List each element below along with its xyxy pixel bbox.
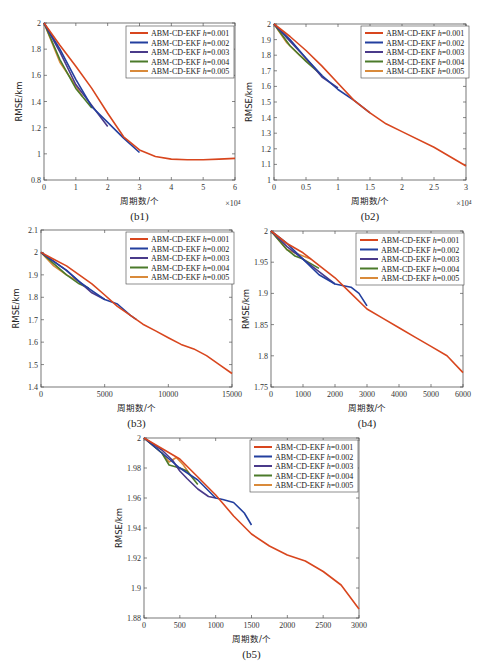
chart-b3: 0500010000150001.41.51.61.71.81.922.1周期数… [11, 226, 242, 430]
x-tick-label: 1500 [244, 621, 260, 630]
x-tick-label: 1000 [208, 621, 224, 630]
y-tick-label: 1.85 [254, 321, 268, 330]
legend-label: ABM-CD-EKF h=0.001 [275, 443, 353, 452]
figure-canvas: 01234560.811.21.41.61.82周期数/个RMSE/km×10⁴… [0, 0, 487, 664]
y-tick-label: 1.75 [254, 383, 268, 392]
legend-label: ABM-CD-EKF h=0.004 [275, 472, 353, 481]
x-tick-label: 3 [138, 183, 142, 192]
x-tick-label: 0 [272, 183, 276, 192]
legend-label: ABM-CD-EKF h=0.002 [386, 39, 464, 48]
x-tick-label: 5000 [97, 390, 113, 399]
y-tick-label: 2 [37, 19, 41, 28]
y-tick-label: 1.2 [261, 145, 271, 154]
x-tick-label: 3000 [359, 390, 375, 399]
chart-b4: 01000200030004000500060001.751.81.851.91… [241, 227, 471, 430]
y-tick-label: 1.8 [261, 51, 271, 60]
legend-label: ABM-CD-EKF h=0.005 [151, 67, 229, 76]
legend-label: ABM-CD-EKF h=0.002 [151, 245, 229, 254]
legend-label: ABM-CD-EKF h=0.003 [386, 48, 464, 57]
y-tick-label: 1.2 [31, 124, 41, 133]
series-line-h0-002 [274, 24, 370, 113]
y-tick-label: 1.7 [28, 316, 38, 325]
x-tick-label: 2500 [315, 621, 331, 630]
x-axis-label: 周期数/个 [232, 634, 271, 644]
legend-label: ABM-CD-EKF h=0.005 [275, 481, 353, 490]
y-tick-label: 2 [267, 20, 271, 29]
legend-label: ABM-CD-EKF h=0.001 [381, 236, 459, 245]
legend-label: ABM-CD-EKF h=0.003 [151, 48, 229, 57]
x-tick-label: 4000 [391, 390, 407, 399]
x-tick-label: 2 [106, 183, 110, 192]
y-tick-label: 1.6 [31, 71, 41, 80]
legend: ABM-CD-EKF h=0.001ABM-CD-EKF h=0.002ABM-… [126, 26, 234, 78]
y-axis-label: RMSE/km [11, 288, 21, 328]
y-tick-label: 1.1 [261, 160, 271, 169]
x-axis-label: 周期数/个 [120, 196, 159, 206]
legend-label: ABM-CD-EKF h=0.005 [381, 274, 459, 283]
x-axis-label: 周期数/个 [351, 196, 390, 206]
y-tick-label: 1.4 [261, 114, 271, 123]
y-tick-label: 1.6 [261, 82, 271, 91]
legend: ABM-CD-EKF h=0.001ABM-CD-EKF h=0.002ABM-… [361, 26, 469, 78]
legend-label: ABM-CD-EKF h=0.002 [381, 246, 459, 255]
legend-label: ABM-CD-EKF h=0.003 [275, 462, 353, 471]
y-tick-label: 1.8 [258, 352, 268, 361]
chart-b5: 0500100015002000250030001.881.91.921.941… [114, 434, 367, 661]
legend-label: ABM-CD-EKF h=0.001 [386, 29, 464, 38]
x-tick-label: 1 [336, 183, 340, 192]
y-tick-label: 1.9 [258, 289, 268, 298]
x-tick-label: 2.5 [429, 183, 439, 192]
y-tick-label: 1.9 [131, 584, 141, 593]
chart-caption: (b5) [242, 648, 261, 661]
y-axis-label: RMSE/km [114, 508, 124, 548]
x-tick-label: 500 [174, 621, 186, 630]
x-tick-label: 6 [233, 183, 237, 192]
x-tick-label: 0 [39, 390, 43, 399]
y-tick-label: 1.3 [261, 129, 271, 138]
legend-label: ABM-CD-EKF h=0.005 [151, 273, 229, 282]
legend-label: ABM-CD-EKF h=0.004 [151, 58, 229, 67]
x-tick-label: 3000 [351, 621, 367, 630]
legend-label: ABM-CD-EKF h=0.003 [151, 254, 229, 263]
x-tick-label: 1 [74, 183, 78, 192]
y-tick-label: 2.1 [28, 226, 38, 235]
y-tick-label: 2 [137, 434, 141, 443]
legend-label: ABM-CD-EKF h=0.001 [151, 235, 229, 244]
y-tick-label: 1.6 [28, 338, 38, 347]
legend-label: ABM-CD-EKF h=0.003 [381, 255, 459, 264]
chart-b1: 01234560.811.21.41.61.82周期数/个RMSE/km×10⁴… [14, 19, 241, 223]
x-tick-label: 6000 [455, 390, 471, 399]
x-tick-label: 0 [142, 621, 146, 630]
y-tick-label: 0.8 [31, 176, 41, 185]
y-axis-label: RMSE/km [14, 81, 24, 121]
y-tick-label: 1.88 [127, 614, 141, 623]
y-tick-label: 1.4 [28, 383, 38, 392]
y-tick-label: 1.9 [28, 271, 38, 280]
legend: ABM-CD-EKF h=0.001ABM-CD-EKF h=0.002ABM-… [250, 440, 358, 492]
x-tick-label: 0.5 [301, 183, 311, 192]
legend: ABM-CD-EKF h=0.001ABM-CD-EKF h=0.002ABM-… [356, 233, 464, 285]
y-tick-label: 1.5 [28, 361, 38, 370]
legend: ABM-CD-EKF h=0.001ABM-CD-EKF h=0.002ABM-… [126, 232, 234, 284]
y-tick-label: 1 [267, 176, 271, 185]
legend-label: ABM-CD-EKF h=0.002 [151, 39, 229, 48]
legend-label: ABM-CD-EKF h=0.004 [386, 58, 464, 67]
chart-b2: 00.511.522.5311.11.21.31.41.51.61.71.81.… [244, 20, 472, 223]
x-axis-label: 周期数/个 [348, 403, 387, 413]
x-tick-label: 2 [400, 183, 404, 192]
y-tick-label: 1.98 [127, 464, 141, 473]
chart-caption: (b4) [358, 417, 377, 430]
x-tick-label: 2000 [279, 621, 295, 630]
y-tick-label: 1.7 [261, 67, 271, 76]
x-axis-label: 周期数/个 [117, 403, 156, 413]
y-tick-label: 2 [34, 248, 38, 257]
y-axis-label: RMSE/km [241, 289, 251, 329]
legend-label: ABM-CD-EKF h=0.002 [275, 453, 353, 462]
x-tick-label: 1000 [295, 390, 311, 399]
x-tick-label: 2000 [327, 390, 343, 399]
x-multiplier: ×10⁴ [225, 199, 241, 208]
legend-label: ABM-CD-EKF h=0.001 [151, 29, 229, 38]
x-multiplier: ×10⁴ [456, 199, 472, 208]
x-tick-label: 3 [464, 183, 468, 192]
x-tick-label: 1.5 [365, 183, 375, 192]
